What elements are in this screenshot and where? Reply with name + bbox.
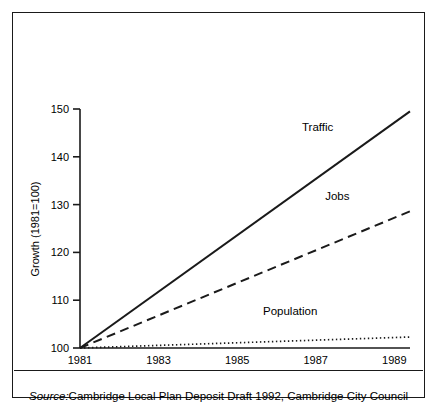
series-line-traffic	[80, 111, 410, 348]
y-tick-label: 130	[51, 199, 69, 211]
x-axis-tick-labels: 19811983198519871989	[68, 354, 407, 366]
x-tick-label: 1983	[146, 354, 170, 366]
x-tick-label: 1981	[68, 354, 92, 366]
x-tick-label: 1987	[303, 354, 327, 366]
chart-plot-area: 100110120130140150 19811983198519871989 …	[13, 13, 424, 397]
x-tick-label: 1989	[382, 354, 406, 366]
series-line-jobs	[80, 211, 410, 348]
data-series-group	[80, 111, 410, 348]
source-label: Source:	[29, 390, 69, 402]
y-tick-label: 100	[51, 342, 69, 354]
figure-frame: 100110120130140150 19811983198519871989 …	[12, 12, 425, 398]
y-tick-label: 150	[51, 103, 69, 115]
source-text: Cambridge Local Plan Deposit Draft 1992,…	[69, 390, 408, 402]
series-label-population: Population	[263, 305, 317, 317]
y-axis-ticks: 100110120130140150	[51, 103, 80, 354]
series-label-traffic: Traffic	[302, 121, 334, 133]
y-axis-title: Growth (1981=100)	[29, 181, 41, 276]
y-tick-label: 120	[51, 246, 69, 258]
y-tick-label: 110	[51, 294, 69, 306]
x-tick-label: 1985	[225, 354, 249, 366]
series-label-group: TrafficJobsPopulation	[263, 121, 350, 318]
series-line-population	[80, 337, 410, 348]
source-caption: Source: Cambridge Local Plan Deposit Dra…	[13, 381, 424, 411]
growth-line-chart: 100110120130140150 19811983198519871989 …	[13, 13, 424, 397]
y-tick-label: 140	[51, 151, 69, 163]
caption-divider	[14, 370, 423, 371]
series-label-jobs: Jobs	[325, 190, 350, 202]
